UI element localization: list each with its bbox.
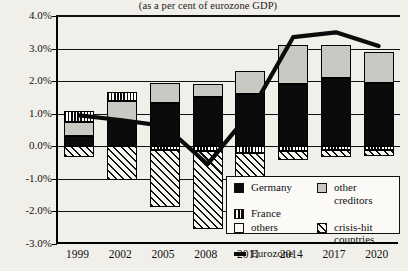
legend-label: crisis-hit countries [334, 221, 393, 246]
eurozone-line-swatch [234, 252, 246, 256]
y-tick-mark [52, 244, 57, 245]
y-tick-label: -1.0% [0, 172, 52, 184]
x-tick-label: 2002 [109, 248, 132, 260]
legend-label: France [251, 207, 313, 220]
y-tick-label: -3.0% [0, 237, 52, 249]
y-tick-label: 2.0% [0, 74, 52, 86]
others-swatch [234, 223, 244, 233]
crisis-hit-swatch [317, 223, 327, 233]
y-tick-label: 4.0% [0, 9, 52, 21]
chart-title: (as a per cent of eurozone GDP) [0, 0, 408, 11]
legend-label: others [251, 221, 313, 234]
chart-title-text: (as a per cent of eurozone GDP) [139, 0, 277, 11]
x-tick-label: 2005 [151, 248, 174, 260]
chart-legend: Germanyother creditorsFranceotherscrisis… [226, 176, 400, 234]
germany-swatch [234, 183, 244, 193]
legend-label: other creditors [334, 181, 393, 206]
x-tick-label: 2008 [194, 248, 217, 260]
eurozone-line-path [79, 32, 378, 164]
chart-figure: (as a per cent of eurozone GDP) 4.0%3.0%… [0, 0, 408, 271]
y-tick-label: 1.0% [0, 107, 52, 119]
y-tick-label: 3.0% [0, 42, 52, 54]
legend-label: Germany [251, 181, 313, 194]
x-tick-label: 1999 [66, 248, 89, 260]
legend-label: Eurozone [251, 247, 313, 260]
y-tick-label: -2.0% [0, 204, 52, 216]
france-swatch [234, 209, 244, 219]
y-tick-label: 0.0% [0, 139, 52, 151]
other-creditors-swatch [317, 183, 327, 193]
